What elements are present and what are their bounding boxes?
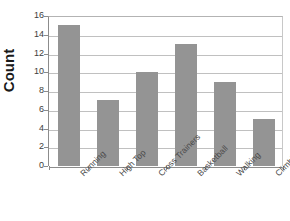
y-axis-tick-group: 0246810121416 [0, 16, 44, 166]
x-axis-tick-label: Climbing [273, 171, 280, 178]
x-axis-tick-label: High Top [117, 171, 124, 178]
x-axis-tick-label: Running [78, 171, 85, 178]
y-axis-tick-label: 8 [4, 86, 44, 95]
bar-series [49, 16, 283, 166]
y-axis-tick-label: 6 [4, 105, 44, 114]
y-axis-tick-label: 2 [4, 142, 44, 151]
x-axis-label-group: RunningHigh TopCross TrainersBasketballW… [49, 171, 283, 221]
x-axis-tick-label: Cross Trainers [156, 171, 163, 178]
y-axis-tick-label: 14 [4, 30, 44, 39]
bar-chart: Count 0246810121416 RunningHigh TopCross… [0, 0, 290, 221]
y-axis-tick-label: 4 [4, 124, 44, 133]
bar-slot [49, 16, 88, 166]
bar-slot [244, 16, 283, 166]
bar-slot [88, 16, 127, 166]
y-axis-tick-label: 10 [4, 67, 44, 76]
x-axis-tick-label: Walking [234, 171, 241, 178]
y-axis-tick-label: 0 [4, 161, 44, 170]
x-axis-tick-mark [49, 166, 50, 170]
y-axis-tick-mark [44, 166, 48, 167]
bar-slot [127, 16, 166, 166]
bar-slot [205, 16, 244, 166]
x-axis-tick-label: Basketball [195, 171, 202, 178]
y-axis-tick-label: 16 [4, 11, 44, 20]
bar [58, 25, 80, 166]
y-axis-tick-label: 12 [4, 49, 44, 58]
